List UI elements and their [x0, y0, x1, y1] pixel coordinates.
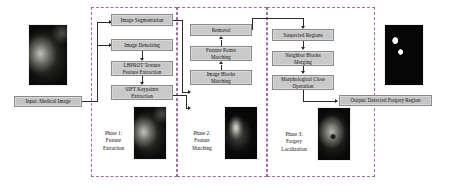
arrow-up-to-feature-points-matching: [219, 61, 223, 64]
phase2-thumb-render: [225, 107, 257, 159]
phase1-thumb-render: [134, 107, 166, 159]
step-image-segmentation: Image Segmentation: [111, 14, 173, 26]
step-feature-points-matching: Feature Points Matching: [190, 46, 252, 61]
output-forgery-mask-image: [384, 24, 424, 86]
input-label-box: Input: Medical Image: [14, 96, 82, 107]
phase2-thumbnail: [224, 106, 258, 160]
step-suspected-regions: Suspected Regions: [272, 29, 334, 41]
conn-removal-up: [252, 18, 253, 30]
arrow-to-lbprot: [140, 58, 144, 61]
conn-input-right: [82, 101, 98, 102]
step-image-blocks-matching: Image Blocks Matching: [190, 70, 252, 85]
phase-2-caption: Phase 2: Feature Matching: [183, 130, 221, 152]
conn-morph-to-output: [303, 101, 337, 102]
arrow-up-to-removal: [219, 36, 223, 39]
output-label-box: Output: Detected Forgery Region: [339, 95, 432, 106]
arrow-to-sift: [140, 82, 144, 85]
phase-1-caption: Phase 1: Feature Extraction: [95, 130, 132, 152]
ultrasound-render: [29, 25, 67, 85]
conn-input-up: [97, 22, 98, 102]
phase1-thumbnail: [133, 106, 167, 160]
arrow-to-morphological-close: [301, 71, 305, 74]
conn-seg-down: [182, 20, 183, 92]
step-image-denoising: Image Denoising: [111, 39, 173, 51]
step-neighbor-blocks-merging: Neighbor Blocks Merging: [272, 51, 334, 66]
arrow-into-feature-points-matching: [188, 106, 191, 110]
step-sift-keypoints-extraction: SIFT Keypoints Extraction: [111, 85, 173, 100]
conn-sift-right: [173, 95, 187, 96]
step-morphological-close-operation: Morphological Close Operation: [272, 75, 334, 90]
conn-removal-right: [252, 18, 303, 19]
diagram-canvas: Input: Medical Image Image Segmentation …: [0, 0, 468, 192]
phase3-thumbnail: [317, 107, 351, 161]
conn-blocks-to-fpm: [221, 65, 222, 71]
arrow-into-output: [335, 99, 338, 103]
input-medical-image: [28, 24, 68, 86]
forgery-mask-render: [385, 25, 423, 85]
step-removal: Removal: [190, 24, 252, 36]
conn-sift-down: [186, 95, 187, 108]
arrow-to-neighbor-blocks-merging: [301, 47, 305, 50]
step-lbprot-texture-feature-extraction: LBPROT Texture Feature Extraction: [111, 61, 173, 76]
arrow-into-image-blocks-matching: [188, 90, 191, 94]
conn-morph-down: [303, 90, 304, 101]
conn-fpm-to-removal: [221, 40, 222, 47]
phase-3-caption: Phase 3: Forgery Localization: [272, 131, 316, 153]
phase3-thumb-render: [318, 108, 350, 160]
